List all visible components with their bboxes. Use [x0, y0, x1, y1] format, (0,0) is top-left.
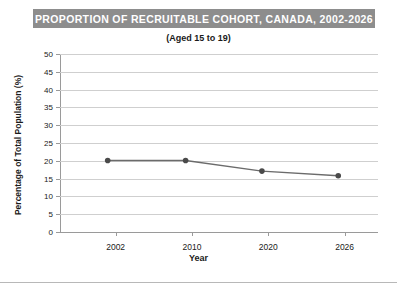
y-tick-label: 0	[49, 228, 53, 237]
y-tick-label: 15	[44, 174, 53, 183]
x-tick-label: 2002	[106, 242, 125, 252]
data-point	[105, 158, 111, 164]
x-tick-label: 2020	[259, 242, 278, 252]
y-tick-label: 5	[49, 210, 53, 219]
data-series	[60, 54, 378, 232]
y-tick-label: 50	[44, 50, 53, 59]
y-tick-label: 45	[44, 67, 53, 76]
x-axis-line	[60, 232, 378, 233]
data-point	[183, 158, 189, 164]
chart-subtitle: (Aged 15 to 19)	[0, 33, 397, 43]
y-tick-label: 10	[44, 192, 53, 201]
y-axis-title: Percentage of Total Population (%)	[13, 55, 23, 235]
data-point	[259, 168, 265, 174]
x-axis-title: Year	[0, 253, 397, 263]
x-tick-mark	[268, 232, 269, 236]
chart-title: PROPORTION OF RECRUITABLE COHORT, CANADA…	[35, 13, 373, 25]
y-tick-label: 20	[44, 156, 53, 165]
chart-title-banner: PROPORTION OF RECRUITABLE COHORT, CANADA…	[33, 9, 375, 28]
x-tick-mark	[192, 232, 193, 236]
x-tick-mark	[116, 232, 117, 236]
chart-figure: PROPORTION OF RECRUITABLE COHORT, CANADA…	[0, 0, 397, 283]
y-tick-label: 40	[44, 85, 53, 94]
y-tick-label: 25	[44, 139, 53, 148]
x-tick-label: 2026	[335, 242, 354, 252]
series-line	[108, 160, 339, 175]
plot-area-wrapper: 05101520253035404550 2002201020202026	[60, 54, 378, 232]
data-point	[335, 173, 341, 179]
x-tick-mark	[345, 232, 346, 236]
x-tick-label: 2010	[183, 242, 202, 252]
y-tick-label: 35	[44, 103, 53, 112]
y-tick-label: 30	[44, 121, 53, 130]
